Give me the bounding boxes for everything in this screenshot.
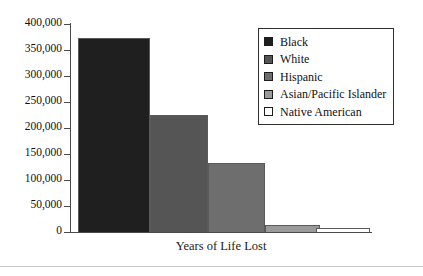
legend-item-label: Asian/Pacific Islander (280, 88, 386, 100)
y-axis-tick-label: 0 (56, 224, 62, 236)
y-axis-tick-mark (64, 24, 71, 25)
y-axis-tick-mark (64, 180, 71, 181)
y-axis-tick-mark (64, 128, 71, 129)
y-axis-tick-label: 200,000 (25, 120, 62, 132)
legend-item: White (264, 51, 393, 69)
bar (208, 163, 265, 232)
bar (265, 225, 320, 232)
legend-item-label: Hispanic (280, 71, 323, 83)
y-axis-tick-label: 50,000 (30, 198, 62, 210)
y-axis-tick-label: 300,000 (25, 68, 62, 80)
y-axis-tick-label: 100,000 (25, 172, 62, 184)
y-axis-tick-mark (64, 232, 71, 233)
y-axis-tick-label: 150,000 (25, 146, 62, 158)
legend-item-label: Native American (280, 106, 362, 118)
legend-item: Black (264, 33, 393, 51)
y-axis-tick-label: 400,000 (25, 16, 62, 28)
bar (150, 115, 208, 232)
legend-item-label: Black (280, 36, 308, 48)
x-axis-line (70, 232, 372, 233)
legend-swatch-icon (264, 72, 273, 81)
legend-item-label: White (280, 53, 309, 65)
legend-item: Asian/Pacific Islander (264, 86, 393, 104)
legend-item: Native American (264, 103, 393, 121)
bar-chart-figure: 400,000350,000300,000250,000200,000150,0… (0, 0, 423, 276)
bar (316, 228, 370, 232)
y-axis-tick-label: 350,000 (25, 42, 62, 54)
legend-item: Hispanic (264, 68, 393, 86)
y-axis-tick-mark (64, 50, 71, 51)
legend-swatch-icon (264, 55, 273, 64)
y-axis-tick-mark (64, 102, 71, 103)
y-axis-tick-mark (64, 154, 71, 155)
legend-swatch-icon (264, 90, 273, 99)
bar (78, 38, 150, 232)
y-axis-tick-label: 250,000 (25, 94, 62, 106)
legend-swatch-icon (264, 37, 273, 46)
chart-legend: BlackWhiteHispanicAsian/Pacific Islander… (258, 28, 394, 125)
x-axis-title: Years of Life Lost (71, 239, 371, 254)
y-axis-tick-mark (64, 206, 71, 207)
y-axis-tick-mark (64, 76, 71, 77)
page-divider-rule (0, 266, 423, 267)
legend-swatch-icon (264, 107, 273, 116)
